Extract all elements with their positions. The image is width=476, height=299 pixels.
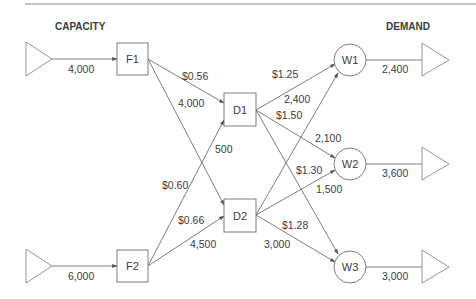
node-f2: F2 (117, 250, 148, 282)
node-d2-label: D2 (233, 210, 247, 222)
edge-f2-d2-flow: 4,500 (190, 238, 216, 250)
node-d1-label: D1 (233, 104, 247, 116)
supply-source-f2 (26, 249, 52, 283)
edge-d2-w2-cost: $1.30 (296, 164, 322, 176)
demand-sink-w3 (422, 250, 449, 283)
node-d2: D2 (224, 199, 256, 232)
supply-f2-label: 6,000 (68, 270, 94, 282)
demand-sink-w1 (422, 43, 449, 76)
node-w1: W1 (334, 44, 366, 76)
edge-d1-w1-cost: $1.25 (272, 68, 298, 80)
supply-source-f1 (26, 42, 52, 76)
supply-f1-label: 4,000 (68, 63, 94, 75)
edge-f2-d1-cost: $0.60 (162, 179, 188, 191)
node-f2-label: F2 (126, 260, 139, 272)
edge-d2-w3-cost: $1.28 (282, 219, 308, 231)
edge-d2-w2-flow: 1,500 (316, 183, 342, 195)
edge-d1-w2-cost: $1.50 (276, 109, 302, 121)
node-w3: W3 (334, 251, 366, 283)
node-w1-label: W1 (342, 54, 359, 66)
edge-f1-d1-cost: $0.56 (182, 70, 208, 82)
node-d1: D1 (224, 93, 256, 126)
demand-header: DEMAND (386, 21, 430, 32)
edge-d2-w3-flow: 3,000 (264, 238, 290, 250)
demand-w1-label: 2,400 (382, 63, 408, 75)
demand-w3-label: 3,000 (382, 270, 408, 282)
edge-f2-d2-cost: $0.66 (178, 214, 204, 226)
edge-f1-d1-flow: 4,000 (178, 97, 204, 109)
demand-sink-w2 (422, 147, 449, 180)
node-w2-label: W2 (342, 158, 359, 170)
node-w2: W2 (334, 148, 366, 180)
network-diagram: CAPACITY DEMAND F1 F2 D1 D2 W1 (0, 0, 476, 299)
node-f1: F1 (117, 43, 148, 75)
node-w3-label: W3 (342, 261, 359, 273)
node-f1-label: F1 (126, 53, 139, 65)
demand-w2-label: 3,600 (382, 167, 408, 179)
edge-d1-w1-flow: 2,400 (284, 93, 310, 105)
capacity-header: CAPACITY (55, 21, 106, 32)
edge-d1-w2-flow: 2,100 (315, 132, 341, 144)
edge-f2-d1-flow: 500 (215, 143, 233, 155)
